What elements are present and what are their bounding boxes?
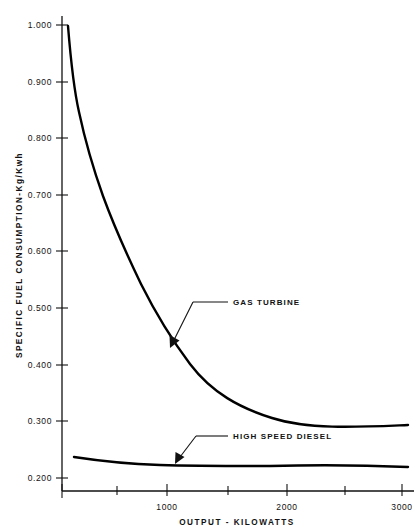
x-tick-label: 1000 [156,502,177,512]
y-tick-label: 0.900 [28,77,52,87]
y-tick-label: 1.000 [28,20,52,30]
chart-canvas: 1.000 0.900 0.800 0.700 0.600 0.500 0.40… [0,0,417,530]
chart-figure: 1.000 0.900 0.800 0.700 0.600 0.500 0.40… [0,0,417,530]
annotation-label-high-speed-diesel: HIGH SPEED DIESEL [233,432,332,441]
annotation-gas-turbine: GAS TURBINE [170,298,301,348]
series-line-high-speed-diesel [74,457,408,467]
y-tick-label: 0.300 [28,416,52,426]
series-line-gas-turbine [68,26,408,427]
annotation-high-speed-diesel: HIGH SPEED DIESEL [175,432,332,464]
y-tick-label: 0.200 [28,473,52,483]
y-tick-label: 0.400 [28,360,52,370]
y-tick-label: 0.600 [28,246,52,256]
y-axis-title: SPECIFIC FUEL CONSUMPTION-Kg/Kwh [15,152,24,358]
y-tick-label: 0.700 [28,190,52,200]
annotation-label-gas-turbine: GAS TURBINE [233,298,300,307]
x-tick-label: 3000 [391,502,412,512]
x-tick-label: 2000 [276,502,297,512]
x-axis-title: OUTPUT - KILOWATTS [179,518,295,527]
y-tick-label: 0.800 [28,133,52,143]
y-tick-label: 0.500 [28,303,52,313]
